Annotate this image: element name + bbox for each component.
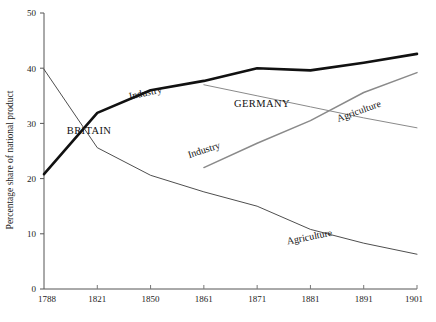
x-tick-label: 1821 — [88, 294, 106, 304]
annotation-industry: Industry — [128, 84, 163, 102]
x-tick-label: 1891 — [355, 294, 373, 304]
series-line-britain-agriculture — [44, 69, 417, 254]
x-tick-label: 1901 — [405, 294, 423, 304]
annotation-britain: BRITAIN — [67, 125, 112, 136]
y-tick-label: 0 — [32, 284, 37, 294]
y-axis-ticks: 01020304050 — [27, 8, 44, 294]
annotation-industry: Industry — [186, 139, 221, 160]
x-tick-label: 1871 — [248, 294, 266, 304]
y-tick-label: 30 — [27, 119, 37, 129]
axes-group — [44, 13, 417, 289]
y-tick-label: 20 — [27, 174, 37, 184]
y-tick-label: 10 — [27, 229, 37, 239]
y-tick-label: 40 — [27, 64, 37, 74]
x-axis-ticks: 17881821185018611871188118911901 — [38, 285, 423, 304]
annotation-germany: GERMANY — [234, 98, 290, 109]
annotation-agriculture: Agriculture — [286, 227, 334, 247]
chart-container: 01020304050 1788182118501861187118811891… — [0, 0, 436, 322]
series-lines — [44, 54, 417, 254]
x-tick-label: 1850 — [142, 294, 161, 304]
x-tick-label: 1788 — [38, 294, 57, 304]
y-axis-title: Percentage share of national product — [5, 90, 15, 229]
series-line-germany-industry — [204, 73, 417, 168]
x-tick-label: 1881 — [301, 294, 319, 304]
line-chart: 01020304050 1788182118501861187118811891… — [0, 0, 436, 322]
x-tick-label: 1861 — [195, 294, 213, 304]
y-tick-label: 50 — [27, 8, 37, 18]
